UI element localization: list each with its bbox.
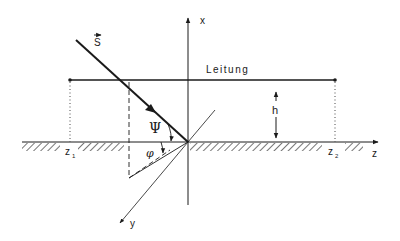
diagram-canvas: x y z S Leitung h z1 z2 Ψ φ — [0, 0, 400, 241]
phi-angle-arc — [161, 142, 163, 153]
y-axis — [120, 142, 188, 223]
ground-hatch-mid-left — [78, 143, 124, 151]
ground-hatch-left — [22, 143, 60, 151]
y-axis-upper — [188, 110, 215, 142]
x-axis-label: x — [200, 15, 205, 26]
z2-label: z2 — [328, 146, 339, 159]
leitung-endpoint-left — [68, 78, 72, 82]
y-axis-label: y — [130, 218, 135, 229]
s-vector-label: S — [94, 37, 101, 48]
psi-angle-label: Ψ — [149, 120, 161, 136]
z-axis-label: z — [372, 148, 377, 159]
ground-hatch-right — [345, 143, 363, 151]
phi-angle-label: φ — [146, 147, 154, 160]
leitung-label: Leitung — [206, 64, 249, 75]
h-label: h — [272, 104, 278, 116]
projected-vector — [129, 142, 188, 178]
z1-label: z1 — [65, 146, 76, 159]
s-vector-line — [76, 40, 188, 142]
ground — [22, 142, 378, 151]
leitung-endpoint-right — [333, 78, 337, 82]
ground-hatch-center — [190, 143, 322, 151]
